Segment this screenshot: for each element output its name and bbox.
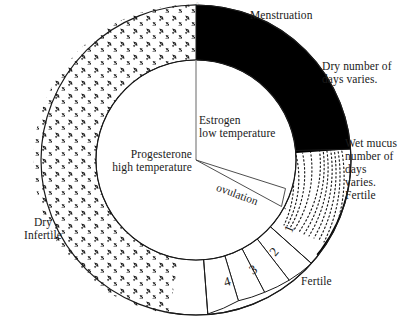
ring-diagram-svg	[0, 0, 399, 320]
top-mark-glyph: °	[196, 1, 199, 9]
label-menstruation: Menstruation	[250, 9, 313, 22]
label-dry-infertile: Dry Infertile	[10, 216, 76, 242]
label-fertile: Fertile	[301, 275, 332, 288]
label-dry-days: Dry number of days varies.	[322, 60, 392, 86]
diagram-canvas: Menstruation Dry number of days varies. …	[0, 0, 399, 320]
label-estrogen: Estrogen low temperature	[199, 114, 276, 140]
label-progesterone: Progesterone high temperature	[106, 148, 192, 174]
label-wet-mucus: Wet mucus number of days varies. Fertile	[345, 137, 399, 201]
